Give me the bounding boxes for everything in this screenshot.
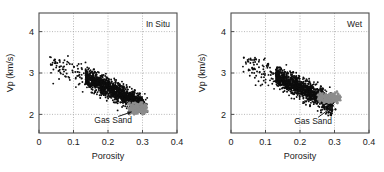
annotation-label: Gas Sand [94, 115, 132, 125]
y-tick-label: 4 [29, 27, 34, 37]
y-tick-label: 2 [29, 110, 34, 120]
figure-container: 00.10.20.30.4234PorosityVp (km/s)In Situ… [0, 0, 384, 172]
x-tick-label: 0.2 [294, 137, 307, 147]
y-tick-label: 3 [29, 68, 34, 78]
series-gas-sand [127, 101, 149, 116]
panel-wet: 00.10.20.30.4234PorosityVp (km/s)WetGas … [192, 0, 384, 172]
panel-condition-label: Wet [347, 19, 363, 29]
x-axis-title: Porosity [284, 151, 317, 161]
scatter-plot-wet: 00.10.20.30.4234PorosityVp (km/s)WetGas … [192, 0, 384, 172]
x-tick-label: 0.4 [363, 137, 376, 147]
x-tick-label: 0.3 [328, 137, 341, 147]
x-tick-label: 0.2 [102, 137, 115, 147]
y-tick-label: 3 [221, 68, 226, 78]
scatter-plot-in-situ: 00.10.20.30.4234PorosityVp (km/s)In Situ… [0, 0, 192, 172]
panel-condition-label: In Situ [146, 19, 170, 29]
x-tick-label: 0 [36, 137, 41, 147]
x-axis-title: Porosity [92, 151, 125, 161]
y-tick-label: 4 [221, 27, 226, 37]
y-axis-title: Vp (km/s) [5, 54, 15, 93]
x-tick-label: 0.1 [259, 137, 272, 147]
x-tick-label: 0.3 [136, 137, 149, 147]
y-tick-label: 2 [221, 110, 226, 120]
x-tick-label: 0.4 [171, 137, 184, 147]
annotation-label: Gas Sand [294, 116, 332, 126]
y-axis-title: Vp (km/s) [197, 54, 207, 93]
x-tick-label: 0.1 [67, 137, 80, 147]
panel-in-situ: 00.10.20.30.4234PorosityVp (km/s)In Situ… [0, 0, 192, 172]
x-tick-label: 0 [228, 137, 233, 147]
